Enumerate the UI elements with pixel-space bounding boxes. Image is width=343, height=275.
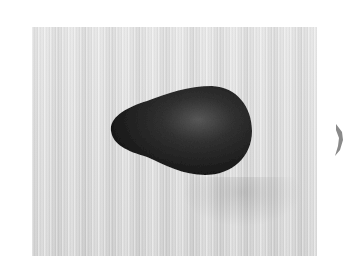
avocado-shadow (182, 177, 302, 227)
avocado-image (107, 85, 253, 176)
chevron-right-icon[interactable] (334, 122, 343, 158)
